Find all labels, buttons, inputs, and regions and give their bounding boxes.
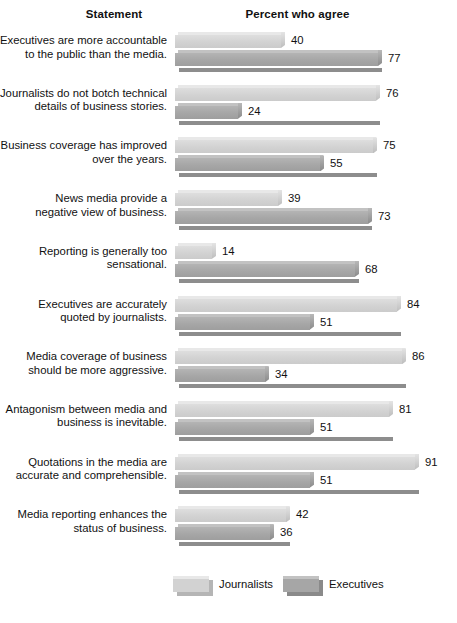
bar-value-label: 24	[248, 105, 261, 117]
bar-segment	[175, 314, 310, 330]
bar-top-bevel	[178, 296, 400, 299]
legend-swatch-journalists	[173, 576, 209, 592]
statement-label-line: Quotations in the media are	[0, 456, 167, 470]
bar-top-bevel	[178, 348, 405, 351]
chart-row: News media provide anegative view of bus…	[0, 188, 457, 238]
bar-segment	[175, 190, 278, 206]
chart-container: Statement Percent who agree Executives a…	[0, 0, 457, 623]
statement-label: Business coverage has improvedover the y…	[0, 139, 167, 166]
bar-top-bevel	[178, 190, 281, 193]
bar-face	[175, 299, 397, 312]
bar-segment	[175, 472, 310, 488]
bar-drop-shadow	[179, 490, 419, 494]
statement-label-line: Journalists do not botch technical	[0, 87, 167, 101]
bar-segment	[175, 454, 415, 470]
statement-label-line: sensational.	[0, 258, 167, 272]
statement-label-line: status of business.	[0, 522, 167, 536]
statement-label-line: Antagonism between media and	[0, 403, 167, 417]
statement-label-line: Business coverage has improved	[0, 139, 167, 153]
bar-segment	[175, 401, 389, 417]
bar-segment	[175, 419, 310, 435]
bar-face	[175, 211, 368, 224]
bar-drop-shadow	[179, 173, 377, 177]
bar-value-label: 51	[320, 421, 333, 433]
bar-top-bevel	[178, 243, 215, 246]
bar-value-label: 86	[412, 350, 425, 362]
statement-label-line: details of business stories.	[0, 100, 167, 114]
chart-row: Antagonism between media andbusiness is …	[0, 399, 457, 449]
statement-label: Executives are accuratelyquoted by journ…	[0, 298, 167, 325]
statement-label-line: to the public than the media.	[0, 48, 167, 62]
bar-drop-shadow	[179, 68, 382, 72]
bar-drop-shadow	[179, 279, 359, 283]
bar-face	[175, 422, 310, 435]
bar-side-bevel	[402, 348, 406, 364]
bar-value-label: 40	[291, 34, 304, 46]
bar-side-bevel	[368, 208, 372, 224]
bar-segment	[175, 524, 270, 540]
bar-value-label: 91	[425, 456, 438, 468]
bar-side-bevel	[238, 103, 242, 119]
statement-label: Media coverage of businessshould be more…	[0, 350, 167, 377]
bar-segment	[175, 137, 373, 153]
bar-top-bevel	[178, 85, 379, 88]
statement-label: Reporting is generally toosensational.	[0, 245, 167, 272]
bar-top-bevel	[178, 506, 289, 509]
bar-segment	[175, 296, 397, 312]
statement-label: Journalists do not botch technicaldetail…	[0, 87, 167, 114]
statement-label-line: accurate and comprehensible.	[0, 469, 167, 483]
bar-top-bevel	[178, 137, 376, 140]
bar-side-bevel	[376, 85, 380, 101]
bar-side-bevel	[397, 296, 401, 312]
bar-top-bevel	[178, 155, 323, 158]
statement-label-line: negative view of business.	[0, 206, 167, 220]
bar-face	[175, 53, 378, 66]
bar-segment	[175, 348, 402, 364]
statement-label: Antagonism between media andbusiness is …	[0, 403, 167, 430]
bar-segment	[175, 103, 238, 119]
bar-drop-shadow	[179, 226, 372, 230]
bar-side-bevel	[310, 472, 314, 488]
bar-face	[175, 369, 265, 382]
statement-label-line: business is inevitable.	[0, 416, 167, 430]
statement-label-line: should be more aggressive.	[0, 364, 167, 378]
bar-face	[175, 509, 286, 522]
bar-value-label: 36	[280, 526, 293, 538]
bar-side-bevel	[415, 454, 419, 470]
bar-value-label: 55	[330, 157, 343, 169]
chart-row: Quotations in the media areaccurate and …	[0, 452, 457, 502]
bar-segment	[175, 32, 281, 48]
bar-segment	[175, 155, 320, 171]
bar-drop-shadow	[179, 332, 401, 336]
statement-label: Quotations in the media areaccurate and …	[0, 456, 167, 483]
bar-top-bevel	[178, 103, 241, 106]
chart-row: Journalists do not botch technicaldetail…	[0, 83, 457, 133]
chart-row: Executives are accuratelyquoted by journ…	[0, 294, 457, 344]
bar-value-label: 73	[378, 210, 391, 222]
bar-segment	[175, 208, 368, 224]
bar-chart-plot-area: Executives are more accountableto the pu…	[0, 0, 457, 570]
statement-label-line: over the years.	[0, 153, 167, 167]
bar-segment	[175, 50, 378, 66]
bar-segment	[175, 243, 212, 259]
bar-drop-shadow	[179, 121, 380, 125]
bar-top-bevel	[178, 524, 273, 527]
bar-segment	[175, 85, 376, 101]
chart-row: Reporting is generally toosensational.14…	[0, 241, 457, 291]
bar-face	[175, 527, 270, 540]
bar-drop-shadow	[179, 542, 290, 546]
bar-face	[175, 264, 355, 277]
bar-face	[175, 193, 278, 206]
bar-face	[175, 158, 320, 171]
statement-label-line: Reporting is generally too	[0, 245, 167, 259]
bar-side-bevel	[270, 524, 274, 540]
legend-label-journalists: Journalists	[219, 578, 273, 590]
bar-side-bevel	[310, 314, 314, 330]
legend-label-executives: Executives	[329, 578, 384, 590]
bar-value-label: 51	[320, 474, 333, 486]
statement-label: News media provide anegative view of bus…	[0, 192, 167, 219]
bar-value-label: 76	[386, 87, 399, 99]
chart-legend: Journalists Executives	[0, 575, 457, 599]
bar-side-bevel	[286, 506, 290, 522]
bar-value-label: 81	[399, 403, 412, 415]
